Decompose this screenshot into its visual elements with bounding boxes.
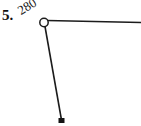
angle-diagram bbox=[0, 0, 141, 126]
angle-figure: 5. 280° bbox=[0, 0, 141, 126]
slanted-ray-line bbox=[45, 27, 62, 121]
endpoint-filled-square-marker bbox=[59, 118, 65, 123]
vertex-open-circle-marker bbox=[40, 18, 48, 26]
horizontal-ray-line bbox=[47, 21, 141, 23]
